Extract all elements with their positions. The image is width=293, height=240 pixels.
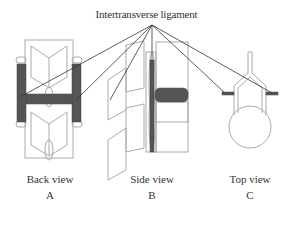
top-view-drawing xyxy=(229,52,271,148)
view-name: Top view xyxy=(229,173,270,185)
view-letter: A xyxy=(10,187,90,203)
caption-back-view: Back view A xyxy=(10,171,90,203)
view-name: Back view xyxy=(27,173,74,185)
caption-side-view: Side view B xyxy=(112,171,192,203)
view-name: Side view xyxy=(130,173,174,185)
view-letter: B xyxy=(112,187,192,203)
side-view-drawing xyxy=(108,41,188,180)
view-letter: C xyxy=(210,187,290,203)
caption-top-view: Top view C xyxy=(210,171,290,203)
